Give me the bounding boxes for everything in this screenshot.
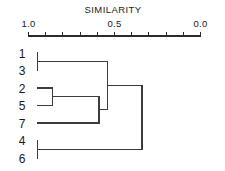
leaf-label-5: 5 xyxy=(19,99,26,113)
dendrogram-plot: SIMILARITY 1.00.50.0 1325746 xyxy=(0,0,225,171)
leaf-label-2: 2 xyxy=(19,82,26,96)
leaf-label-1: 1 xyxy=(19,47,26,61)
chart-title: SIMILARITY xyxy=(85,4,142,15)
link-m3 xyxy=(37,97,100,123)
link-m2 xyxy=(37,88,53,106)
leaf-label-7: 7 xyxy=(19,117,26,131)
dendrogram-figure: SIMILARITY 1.00.50.0 1325746 xyxy=(0,0,225,171)
leaf-label-6: 6 xyxy=(19,152,26,166)
link-m1 xyxy=(37,53,38,71)
dendrogram-links xyxy=(37,53,143,158)
axis-tick-label-0: 1.0 xyxy=(22,18,36,29)
axis-tick-label-1: 0.5 xyxy=(108,18,122,29)
link-m5 xyxy=(37,141,38,159)
leaf-label-4: 4 xyxy=(19,134,26,148)
link-m4 xyxy=(37,62,108,110)
axis-tick-labels: 1.00.50.0 xyxy=(22,18,208,29)
leaf-labels: 1325746 xyxy=(19,47,26,166)
leaf-label-3: 3 xyxy=(19,64,26,78)
axis-tick-label-2: 0.0 xyxy=(194,18,208,29)
